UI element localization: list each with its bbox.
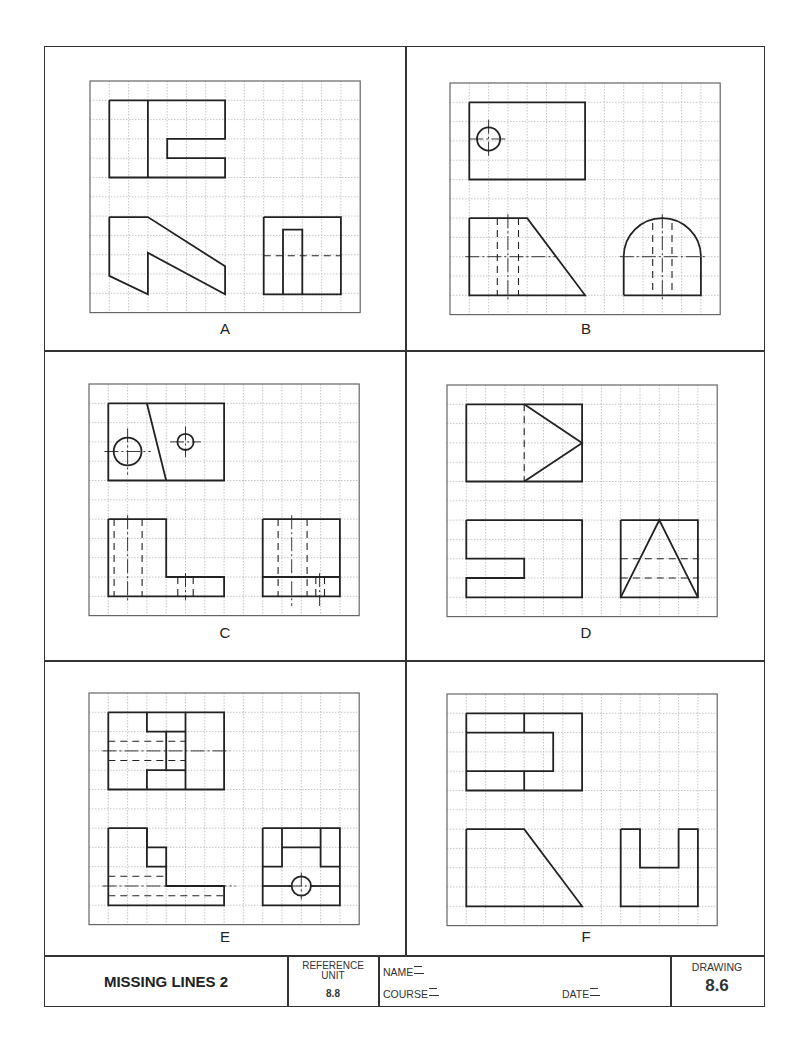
title-block-col-2 <box>378 955 380 1006</box>
panel-c-drawing <box>89 384 359 616</box>
object-line <box>621 829 698 906</box>
name-blank[interactable] <box>414 973 424 974</box>
reference-unit-value: 8.8 <box>288 988 378 999</box>
worksheet-title: MISSING LINES 2 <box>44 956 288 1006</box>
worksheet-page: A B C D E F MISSING LINES 2 REFERENCEUNI… <box>0 0 790 1062</box>
panel-b-label: B <box>566 320 606 337</box>
panel-d-drawing <box>447 385 717 617</box>
name-label: NAME <box>383 966 413 978</box>
course-label: COURSE <box>383 988 428 1000</box>
panel-a-drawing <box>90 81 360 313</box>
panel-d-label: D <box>566 624 606 641</box>
panel-e-label: E <box>205 928 245 945</box>
date-label: DATE <box>562 988 589 1000</box>
object-line <box>283 230 302 295</box>
center-divider <box>405 46 407 956</box>
drawing-number: 8.6 <box>670 976 764 996</box>
course-field[interactable]: COURSE <box>383 988 439 1000</box>
row-divider-1 <box>44 350 765 352</box>
panel-f-drawing <box>447 694 717 926</box>
name-field[interactable]: NAME <box>383 966 424 978</box>
panel-c-label: C <box>205 624 245 641</box>
panel-a-label: A <box>205 320 245 337</box>
course-blank[interactable] <box>429 995 439 996</box>
drawing-label: DRAWING <box>670 961 764 973</box>
drawing-number-cell: DRAWING 8.6 <box>670 956 764 1006</box>
panel-e-drawing <box>89 693 359 925</box>
panel-b-drawing <box>450 83 720 315</box>
row-divider-2 <box>44 660 765 662</box>
object-line <box>263 519 340 596</box>
panel-f-label: F <box>566 928 606 945</box>
date-blank[interactable] <box>590 995 600 996</box>
date-field[interactable]: DATE <box>562 988 600 1000</box>
reference-label-line-2: UNIT <box>321 970 344 981</box>
reference-label: REFERENCEUNIT <box>288 961 378 981</box>
reference-unit-cell: REFERENCEUNIT 8.8 <box>288 956 378 1006</box>
